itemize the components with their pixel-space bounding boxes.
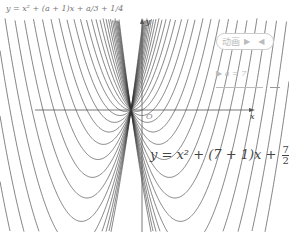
parabola-curve <box>51 19 156 144</box>
parabola-curve <box>100 20 195 123</box>
play-icon[interactable]: ▶ <box>244 37 250 46</box>
a-slider-handle[interactable] <box>270 87 280 88</box>
x-axis-label: x <box>250 112 255 121</box>
animation-label: 动画 <box>222 35 240 48</box>
a-slider-track[interactable] <box>216 87 263 88</box>
fraction-a-over-2: 72 <box>282 145 289 166</box>
formula-prefix: y = x² + (7 + 1)x + <box>150 147 281 162</box>
family-formula: y = x² + (a + 1)x + a/3 + 1/4 <box>6 4 123 13</box>
parabola-curve <box>67 20 162 123</box>
slider-value-label: a = 7 <box>225 69 247 78</box>
animation-control[interactable]: 动画 ▶ ◀ <box>216 33 274 50</box>
slider-value[interactable]: ▶ a = 7 <box>216 69 246 78</box>
reverse-icon[interactable]: ◀ <box>258 37 264 46</box>
parabola-curves <box>0 18 289 232</box>
origin-label: O <box>146 112 153 121</box>
y-axis-arrow-icon <box>140 18 144 24</box>
current-curve-formula: y = x² + (7 + 1)x + 72 + 14 <box>150 145 289 166</box>
slider-toggle-icon[interactable]: ▶ <box>216 69 222 78</box>
parabola-curve <box>106 19 211 144</box>
y-axis-label: y <box>146 17 151 26</box>
